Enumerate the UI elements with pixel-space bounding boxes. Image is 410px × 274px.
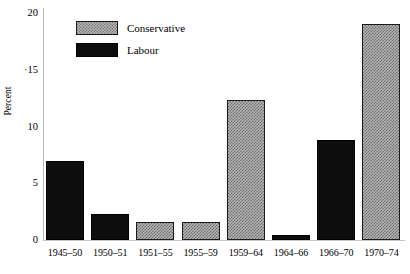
legend-label: Conservative — [127, 22, 185, 34]
x-tick-label: 1955–59 — [177, 247, 225, 258]
x-tick-label: 1945–50 — [41, 247, 89, 258]
x-tick-label: 1959–64 — [222, 247, 270, 258]
x-tick-label: 1970–74 — [357, 247, 405, 258]
x-tick-label: 1951–55 — [131, 247, 179, 258]
legend-item-conservative: Conservative — [76, 19, 185, 37]
legend-swatch-labour — [76, 43, 118, 57]
x-tick-label: 1966–70 — [312, 247, 360, 258]
bar-chart: Percent 0510·1520 1945–501950–511951–551… — [0, 0, 410, 274]
bar-1966-70 — [317, 140, 355, 240]
bar-1964-66 — [272, 235, 310, 240]
legend-item-labour: Labour — [76, 41, 185, 59]
chart-legend: ConservativeLabour — [76, 19, 185, 63]
plot-area: 1945–501950–511951–551955–591959–641964–… — [0, 0, 410, 274]
bar-1951-55 — [136, 222, 174, 240]
legend-swatch-conservative — [76, 21, 118, 35]
legend-label: Labour — [127, 44, 159, 56]
bar-1950-51 — [91, 214, 129, 240]
bar-1970-74 — [362, 24, 400, 240]
x-tick-label: 1950–51 — [86, 247, 134, 258]
x-tick-label: 1964–66 — [267, 247, 315, 258]
bar-1959-64 — [227, 100, 265, 240]
bar-1945-50 — [46, 161, 84, 240]
bar-1955-59 — [182, 222, 220, 240]
